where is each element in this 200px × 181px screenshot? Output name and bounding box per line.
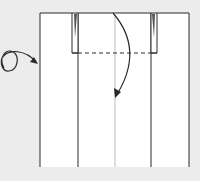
- right-flap: [151, 13, 157, 53]
- left-flap: [72, 13, 78, 53]
- origami-diagram: [0, 0, 200, 181]
